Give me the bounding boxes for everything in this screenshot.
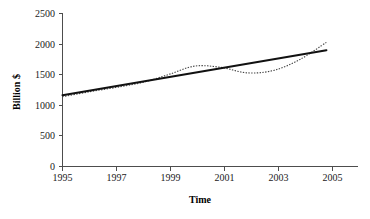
x-tick-labels: 1995 1997 1999 2001 2003 2005 (53, 172, 343, 183)
x-tick-label-2005: 2005 (323, 172, 343, 183)
axes-group (63, 13, 359, 167)
y-tick-label-500: 500 (40, 130, 55, 141)
x-tick-label-1997: 1997 (107, 172, 127, 183)
x-tick-label-2001: 2001 (215, 172, 235, 183)
x-tick-label-1999: 1999 (161, 172, 181, 183)
y-tick-label-1500: 1500 (35, 69, 55, 80)
x-tick-marks (63, 167, 333, 171)
y-axis-title: Billion $ (11, 74, 22, 110)
y-tick-label-1000: 1000 (35, 100, 55, 111)
x-tick-label-2003: 2003 (269, 172, 289, 183)
y-tick-label-2500: 2500 (35, 8, 55, 19)
line-chart: 0 500 1000 1500 2000 2500 1995 1997 1999… (0, 0, 370, 219)
chart-container: 0 500 1000 1500 2000 2500 1995 1997 1999… (0, 0, 370, 219)
y-tick-label-2000: 2000 (35, 39, 55, 50)
trend-series-line (63, 50, 327, 95)
x-axis-title: Time (189, 194, 212, 205)
x-tick-label-1995: 1995 (53, 172, 73, 183)
y-tick-label-0: 0 (50, 161, 55, 172)
y-tick-marks (59, 14, 63, 167)
y-tick-labels: 0 500 1000 1500 2000 2500 (35, 8, 55, 172)
